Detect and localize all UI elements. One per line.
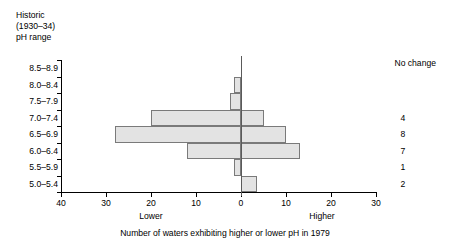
- no-change-value: 7: [388, 143, 418, 160]
- y-axis-label: 8.5–8.9: [29, 60, 58, 77]
- bar-row: [61, 143, 376, 160]
- bar-row: [61, 176, 376, 193]
- x-axis-tick-label: 30: [86, 198, 126, 208]
- x-axis-tick-label: 20: [311, 198, 351, 208]
- x-axis-tick: [61, 192, 62, 197]
- x-axis-tick: [151, 192, 152, 197]
- x-axis-tick: [286, 192, 287, 197]
- bar-lower: [234, 77, 241, 94]
- bar-row: [61, 77, 376, 94]
- no-change-value: [388, 77, 418, 94]
- no-change-value: 8: [388, 126, 418, 143]
- y-axis-label: 7.5–7.9: [29, 93, 58, 110]
- y-axis-title: Historic (1930–34) pH range: [16, 10, 55, 44]
- y-axis-title-line-2: (1930–34): [16, 21, 55, 32]
- x-axis-tick: [331, 192, 332, 197]
- x-axis-tick-label: 0: [221, 198, 261, 208]
- y-axis-title-line-1: Historic: [16, 10, 55, 21]
- bar-lower: [115, 126, 241, 143]
- bar-higher: [241, 143, 300, 160]
- y-axis-labels: 8.5–8.9 8.0–8.4 7.5–7.9 7.0–7.4 6.5–6.9 …: [16, 60, 60, 192]
- bar-row: [61, 159, 376, 176]
- no-change-value: 4: [388, 110, 418, 127]
- y-axis-title-line-3: pH range: [16, 32, 55, 43]
- bar-lower: [230, 93, 241, 110]
- y-axis-label: 6.0–6.4: [29, 143, 58, 160]
- x-axis-tick-label: 30: [356, 198, 396, 208]
- plot-area: [61, 60, 376, 192]
- bar-row: [61, 110, 376, 127]
- no-change-value: [388, 93, 418, 110]
- no-change-value: 2: [388, 176, 418, 193]
- bar-higher: [241, 176, 257, 193]
- x-axis-tick: [376, 192, 377, 197]
- x-axis-tick-label: 40: [41, 198, 81, 208]
- x-axis-tick-label: 20: [131, 198, 171, 208]
- x-axis-tick-label: 10: [266, 198, 306, 208]
- no-change-column: 4 8 7 1 2: [388, 60, 418, 192]
- bar-lower: [234, 159, 241, 176]
- chart-caption: Number of waters exhibiting higher or lo…: [0, 228, 450, 238]
- no-change-value: 1: [388, 159, 418, 176]
- bar-lower: [187, 143, 241, 160]
- zero-reference-line: [241, 56, 242, 196]
- bar-row: [61, 126, 376, 143]
- x-axis-tick-label: 10: [176, 198, 216, 208]
- bar-higher: [241, 126, 286, 143]
- y-axis-label: 5.0–5.4: [29, 176, 58, 193]
- bar-lower: [151, 110, 241, 127]
- ph-change-chart: Historic (1930–34) pH range 8.5–8.9 8.0–…: [0, 0, 450, 248]
- bar-row: [61, 60, 376, 77]
- bar-higher: [241, 110, 264, 127]
- y-axis-label: 7.0–7.4: [29, 110, 58, 127]
- x-axis-higher-label: Higher: [282, 211, 362, 221]
- bar-row: [61, 93, 376, 110]
- x-axis-tick: [106, 192, 107, 197]
- x-axis-lower-label: Lower: [111, 211, 191, 221]
- no-change-value: [388, 60, 418, 77]
- x-axis-tick: [196, 192, 197, 197]
- y-axis-label: 5.5–5.9: [29, 159, 58, 176]
- y-axis-label: 6.5–6.9: [29, 126, 58, 143]
- y-axis-label: 8.0–8.4: [29, 77, 58, 94]
- x-axis-line: [61, 192, 376, 193]
